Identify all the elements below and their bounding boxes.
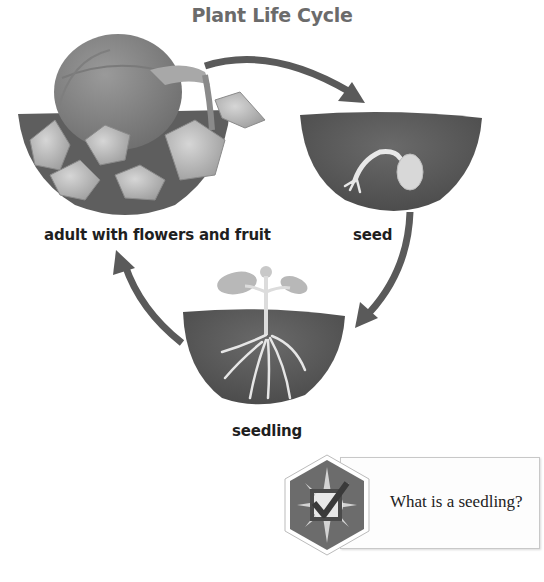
question-text: What is a seedling? — [390, 492, 540, 512]
arrow-adult-to-seed — [205, 60, 350, 92]
arrowhead-icon — [113, 250, 135, 275]
stage-label-adult: adult with flowers and fruit — [44, 226, 271, 244]
checkbox-check-badge-icon — [283, 453, 371, 557]
stage-label-seed: seed — [353, 226, 392, 244]
seed-illustration — [300, 112, 482, 211]
arrow-seedling-to-adult — [125, 265, 182, 343]
seedling-illustration — [183, 266, 345, 404]
stage-label-seedling: seedling — [232, 422, 302, 440]
